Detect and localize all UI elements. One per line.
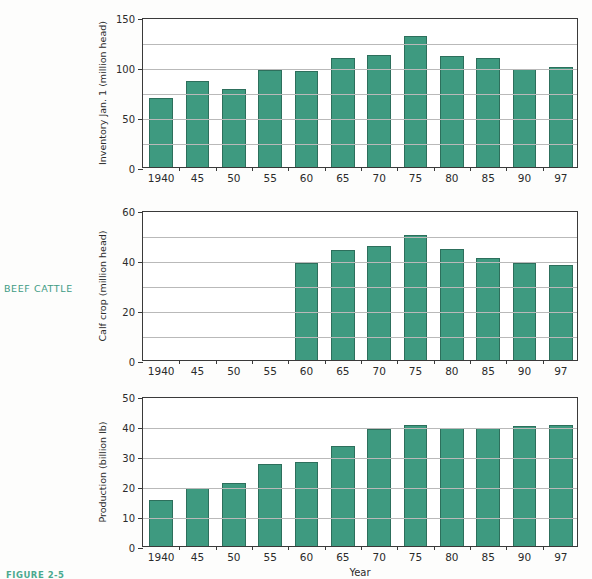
y-axis-tick — [138, 312, 143, 313]
x-axis-tick-label: 65 — [336, 172, 349, 184]
x-axis-tick — [397, 167, 398, 171]
x-axis-tick — [470, 167, 471, 171]
x-axis-tick-label: 75 — [409, 172, 422, 184]
bar — [404, 235, 428, 360]
x-axis-tick — [397, 360, 398, 364]
plot-area-inventory: 05010015019404550556065707580859097 — [142, 18, 578, 168]
x-axis-tick — [252, 360, 253, 364]
gridline — [143, 518, 577, 519]
y-axis-tick — [138, 458, 143, 459]
bar — [513, 426, 537, 546]
bar — [549, 67, 573, 167]
x-axis-tick-label: 55 — [263, 551, 276, 563]
gridline — [143, 119, 577, 120]
x-axis-tick-label: 65 — [336, 365, 349, 377]
gridline — [143, 428, 577, 429]
bar — [367, 246, 391, 360]
x-axis-tick-label: 1940 — [148, 172, 175, 184]
x-axis-tick — [434, 546, 435, 550]
bar — [295, 462, 319, 546]
bar — [149, 98, 173, 167]
y-axis-tick — [138, 362, 143, 363]
bar — [476, 428, 500, 547]
gridline — [143, 458, 577, 459]
bar — [149, 500, 173, 547]
x-axis-tick-label: 97 — [554, 551, 567, 563]
x-axis-tick-label: 90 — [518, 172, 531, 184]
y-axis-title-calf-crop: Calf crop (million head) — [96, 211, 112, 361]
x-axis-tick-label: 75 — [409, 551, 422, 563]
x-axis-tick — [179, 360, 180, 364]
gridline — [143, 337, 577, 338]
x-axis-tick — [397, 546, 398, 550]
bar — [367, 55, 391, 167]
x-axis-tick-label: 60 — [300, 172, 313, 184]
x-axis-tick-label: 90 — [518, 365, 531, 377]
x-axis-tick — [434, 360, 435, 364]
x-axis-tick-label: 50 — [227, 551, 240, 563]
x-axis-tick — [288, 167, 289, 171]
bar — [331, 250, 355, 360]
x-axis-tick — [179, 546, 180, 550]
x-axis-tick — [470, 546, 471, 550]
y-axis-title-label: Production (billion lb) — [96, 397, 110, 547]
bar — [331, 446, 355, 547]
y-axis-tick — [138, 169, 143, 170]
y-axis-tick-label: 10 — [122, 513, 135, 524]
y-axis-tick — [138, 262, 143, 263]
x-axis-tick-label: 85 — [481, 551, 494, 563]
y-axis-tick-label: 30 — [122, 453, 135, 464]
x-axis-tick-label: 1940 — [148, 551, 175, 563]
figure-caption: FIGURE 2-5 — [6, 570, 65, 579]
gridline — [143, 312, 577, 313]
figure-page: BEEF CATTLE FIGURE 2-5 Inventory Jan. 1 … — [0, 0, 592, 579]
y-axis-tick — [138, 398, 143, 399]
x-axis-tick — [361, 167, 362, 171]
x-axis-tick-label: 80 — [445, 365, 458, 377]
bar — [549, 425, 573, 547]
gridline — [143, 94, 577, 95]
x-axis-tick — [252, 546, 253, 550]
x-axis-tick — [216, 546, 217, 550]
x-axis-tick-label: 60 — [300, 365, 313, 377]
bar — [440, 249, 464, 360]
y-axis-title-inventory: Inventory Jan. 1 (million head) — [96, 18, 112, 168]
y-axis-tick — [138, 119, 143, 120]
x-axis-tick — [325, 546, 326, 550]
x-axis-tick — [252, 167, 253, 171]
x-axis-tick — [361, 546, 362, 550]
x-axis-tick — [216, 167, 217, 171]
y-axis-tick-label: 0 — [129, 357, 135, 368]
x-axis-tick — [543, 167, 544, 171]
bar — [222, 89, 246, 167]
chart-panel-inventory: Inventory Jan. 1 (million head) 05010015… — [0, 6, 592, 192]
chart-panel-calf-crop: Calf crop (million head) 020406019404550… — [0, 199, 592, 385]
y-axis-tick-label: 0 — [129, 543, 135, 554]
bar — [258, 464, 282, 547]
plot-area-calf-crop: 020406019404550556065707580859097 — [142, 211, 578, 361]
bar — [513, 69, 537, 167]
bar — [440, 56, 464, 167]
y-axis-tick — [138, 428, 143, 429]
bar — [404, 425, 428, 547]
bar — [440, 428, 464, 547]
x-axis-tick-label: 85 — [481, 365, 494, 377]
gridline — [143, 69, 577, 70]
x-axis-tick-label: 80 — [445, 172, 458, 184]
bar-group-production — [143, 398, 577, 546]
x-axis-tick — [288, 546, 289, 550]
y-axis-tick-label: 40 — [122, 257, 135, 268]
bar — [476, 58, 500, 167]
bar — [404, 36, 428, 167]
x-axis-tick-label: 55 — [263, 365, 276, 377]
y-axis-tick-label: 60 — [122, 207, 135, 218]
x-axis-tick — [543, 546, 544, 550]
x-axis-tick — [325, 360, 326, 364]
x-axis-tick — [288, 360, 289, 364]
y-axis-tick — [138, 19, 143, 20]
chart-panel-production: Production (billion lb) 0102030405019404… — [0, 385, 592, 571]
x-axis-tick-label: 1940 — [148, 365, 175, 377]
x-axis-tick — [434, 167, 435, 171]
x-axis-tick-label: 45 — [191, 551, 204, 563]
y-axis-tick — [138, 212, 143, 213]
